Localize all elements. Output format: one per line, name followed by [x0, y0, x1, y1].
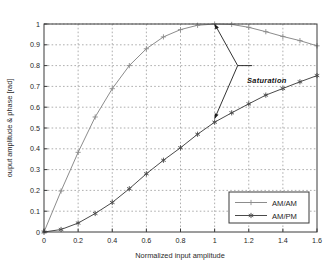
y-tick-label-1: 0.1	[30, 207, 40, 216]
y-tick-label-10: 1	[36, 20, 40, 29]
legend-label-0: AM/AM	[272, 199, 297, 208]
legend[interactable]: AM/AM AM/PM	[229, 192, 309, 223]
y-tick-label-7: 0.7	[30, 82, 40, 91]
annotation-saturation-label: Saturation	[247, 76, 287, 85]
y-tick-label-2: 0.2	[30, 186, 40, 195]
y-axis-label: ouput amplitude & phase [rad]	[5, 79, 14, 178]
legend-box	[229, 192, 309, 223]
y-tick-label-5: 0.5	[30, 124, 40, 133]
x-tick-label-5: 1	[213, 236, 217, 245]
x-tick-label-6: 1.2	[244, 236, 254, 245]
y-tick-label-4: 0.4	[30, 144, 40, 153]
y-tick-label-0: 0	[36, 228, 40, 237]
x-tick-label-4: 0.8	[176, 236, 186, 245]
x-tick-label-3: 0.6	[141, 236, 151, 245]
y-tick-label-9: 0.9	[30, 40, 40, 49]
x-axis-label: Normalized input amplitude	[135, 251, 225, 260]
y-tick-label-8: 0.8	[30, 61, 40, 70]
x-tick-label-7: 1.4	[278, 236, 288, 245]
x-tick-label-2: 0.4	[107, 236, 117, 245]
x-tick-label-0: 0	[42, 236, 46, 245]
x-tick-label-1: 0.2	[73, 236, 83, 245]
chart-svg: 00.20.40.60.811.21.41.6 00.10.20.30.40.5…	[0, 0, 336, 272]
x-tick-label-8: 1.6	[312, 236, 322, 245]
chart-figure: 00.20.40.60.811.21.41.6 00.10.20.30.40.5…	[0, 0, 336, 272]
legend-label-1: AM/PM	[272, 212, 297, 221]
y-tick-label-3: 0.3	[30, 165, 40, 174]
y-tick-label-6: 0.6	[30, 103, 40, 112]
